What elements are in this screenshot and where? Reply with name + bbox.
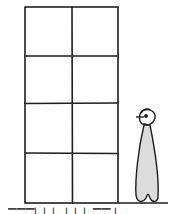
caption-clipped: ▔▔▔▏▏▏ ▏▏▏▔▔ ▏	[8, 206, 168, 214]
caption-text: ▔▔▔▏▏▏ ▏▏▏▔▔ ▏	[8, 208, 124, 214]
window-transom-2	[25, 103, 118, 104]
person-eye	[145, 115, 147, 117]
illustration	[0, 0, 172, 214]
person-figure	[136, 109, 158, 202]
window-transom-3	[26, 153, 119, 154]
person-body	[136, 125, 158, 202]
window-mullion	[72, 7, 73, 203]
window-grid	[25, 7, 118, 203]
